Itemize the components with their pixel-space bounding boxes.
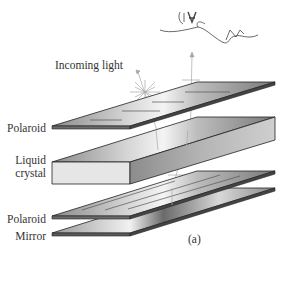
label-liquid-crystal-line1: Liquid: [2, 154, 46, 167]
label-liquid-crystal-line2: crystal: [2, 167, 46, 180]
label-polaroid-bottom: Polaroid: [2, 213, 46, 226]
panel-label: (a): [188, 233, 201, 246]
label-liquid-crystal: Liquid crystal: [2, 154, 46, 180]
lcd-layers-diagram: [0, 0, 282, 287]
observer-face-sketch: [160, 12, 258, 43]
label-polaroid-top: Polaroid: [2, 122, 46, 135]
label-incoming-light: Incoming light: [55, 59, 123, 72]
label-mirror: Mirror: [2, 230, 46, 243]
